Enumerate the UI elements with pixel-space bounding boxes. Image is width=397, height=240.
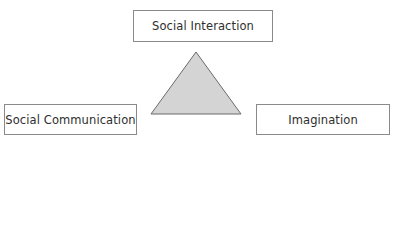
node-label: Social Communication (5, 113, 135, 127)
node-social-communication: Social Communication (4, 104, 137, 135)
node-imagination: Imagination (256, 104, 390, 135)
node-label: Imagination (288, 113, 358, 127)
